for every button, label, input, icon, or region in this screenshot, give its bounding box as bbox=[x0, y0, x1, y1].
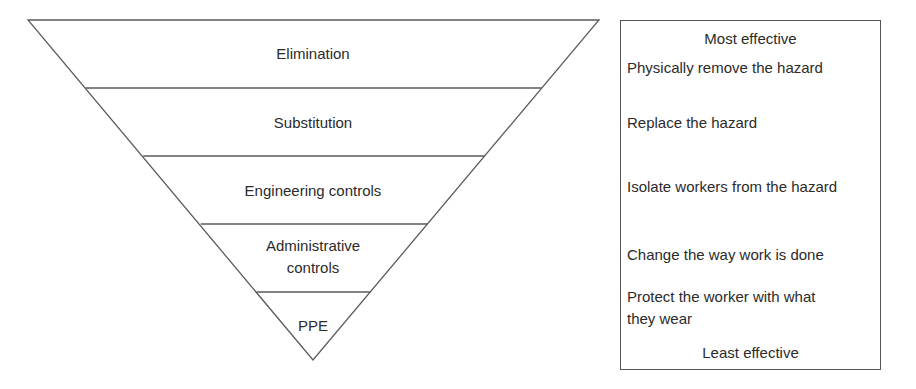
ppe-description-line2: they wear bbox=[627, 309, 876, 328]
level-administrative-label-line2: controls bbox=[213, 258, 413, 277]
substitution-description: Replace the hazard bbox=[627, 113, 876, 132]
least-effective-label: Least effective bbox=[621, 343, 880, 362]
effectiveness-box: Most effective Physically remove the haz… bbox=[620, 20, 881, 370]
hierarchy-of-controls-diagram: Elimination Substitution Engineering con… bbox=[0, 0, 916, 389]
level-substitution-label: Substitution bbox=[213, 113, 413, 132]
ppe-description-line1: Protect the worker with what bbox=[627, 287, 876, 306]
engineering-controls-description: Isolate workers from the hazard bbox=[627, 177, 876, 196]
level-ppe-label: PPE bbox=[263, 316, 363, 335]
most-effective-label: Most effective bbox=[621, 29, 880, 48]
level-elimination-label: Elimination bbox=[213, 44, 413, 63]
elimination-description: Physically remove the hazard bbox=[627, 58, 876, 77]
administrative-controls-description: Change the way work is done bbox=[627, 245, 876, 264]
level-administrative-label-line1: Administrative bbox=[213, 236, 413, 255]
level-engineering-controls-label: Engineering controls bbox=[213, 181, 413, 200]
